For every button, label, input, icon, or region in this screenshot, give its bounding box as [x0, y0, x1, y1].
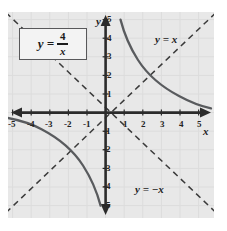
ytick-label-neg-1: -1	[103, 127, 111, 136]
label-line-y-equals-negative-x: y = −x	[135, 184, 164, 195]
label-line-y-equals-x: y = x	[155, 34, 177, 45]
fraction-denominator: x	[60, 45, 66, 57]
ytick-label-4: 4	[107, 34, 112, 43]
ytick-label-neg-4: -4	[103, 182, 111, 191]
xtick-label-5: 5	[197, 120, 202, 129]
ytick-label-neg-3: -3	[103, 164, 111, 173]
xtick-label-neg-4: -4	[27, 120, 35, 129]
ytick-label-neg-2: -2	[103, 145, 111, 154]
x-axis-name: x	[203, 126, 209, 137]
xtick-label-1: 1	[123, 120, 128, 129]
fraction-numerator: 4	[60, 31, 66, 43]
ytick-label-2: 2	[107, 71, 112, 80]
xtick-label-neg-3: -3	[45, 120, 53, 129]
equation-lhs: y =	[38, 36, 54, 52]
equation-fraction: 4 x	[57, 31, 68, 56]
ytick-label-neg-5: -5	[103, 201, 111, 210]
ytick-label-5: 5	[107, 15, 112, 24]
graph-figure: y = 4 x y = x y = −x y x 5 4 3 2 1 -1 -2…	[0, 0, 227, 231]
x-axis	[11, 108, 211, 118]
xtick-label-3: 3	[160, 120, 165, 129]
xtick-label-neg-2: -2	[64, 120, 72, 129]
xtick-label-neg-5: -5	[8, 120, 16, 129]
xtick-label-4: 4	[179, 120, 184, 129]
xtick-label-2: 2	[141, 120, 146, 129]
y-axis-name: y	[96, 16, 101, 27]
ytick-label-3: 3	[107, 52, 112, 61]
equation-label-box: y = 4 x	[19, 28, 87, 60]
xtick-label-neg-1: -1	[83, 120, 91, 129]
ytick-label-1: 1	[107, 90, 112, 99]
